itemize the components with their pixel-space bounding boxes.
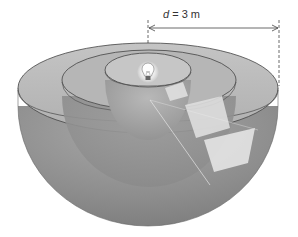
distance-label: d = 3 m <box>163 8 200 20</box>
distance-value: = 3 m <box>169 8 200 20</box>
light-bulb-icon <box>137 61 159 83</box>
hemispheres-diagram <box>0 0 298 237</box>
